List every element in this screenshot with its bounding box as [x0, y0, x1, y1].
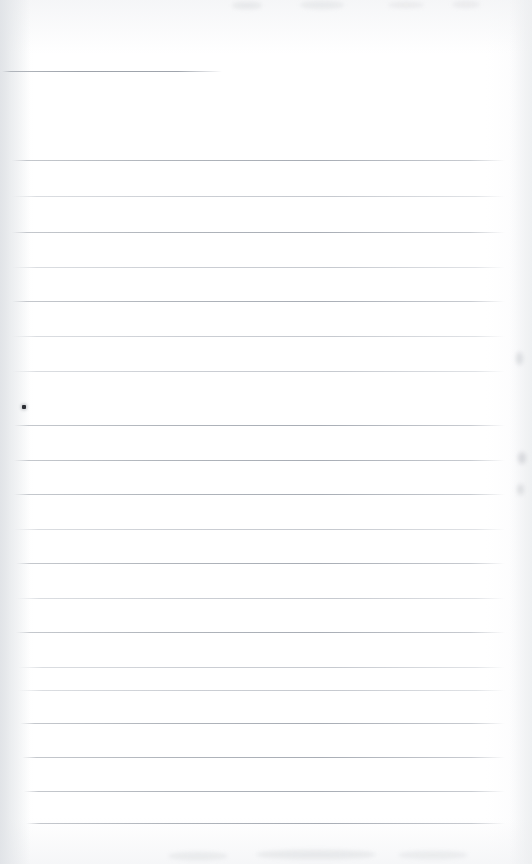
scanned-page [0, 0, 532, 864]
ruled-line [12, 196, 505, 197]
top-smudge-b [300, 1, 344, 9]
binding-gutter-shadow [0, 0, 30, 864]
ruled-line [22, 757, 505, 758]
ruled-line [12, 232, 505, 233]
bottom-smudge-a [168, 852, 228, 860]
top-smudge-a [232, 2, 262, 9]
header-rule [2, 71, 222, 72]
ruled-line [14, 494, 505, 495]
paper-background [0, 0, 532, 864]
ruled-line [14, 425, 505, 426]
edge-smudge-right-mid [518, 452, 526, 464]
ruled-line [24, 791, 505, 792]
ruled-line [12, 371, 505, 372]
ruled-line [12, 160, 505, 161]
top-smudge-d [452, 1, 480, 8]
ruled-line [12, 336, 505, 337]
top-smudge-c [388, 2, 424, 8]
ruled-line [16, 563, 505, 564]
edge-smudge-right-upper [516, 352, 523, 365]
ruled-line [20, 723, 505, 724]
ruled-line [12, 267, 505, 268]
ruled-line [18, 667, 505, 668]
ruled-line [12, 301, 505, 302]
page-right-edge-shadow [510, 0, 532, 864]
ruled-line [14, 460, 505, 461]
edge-smudge-right-lower [517, 484, 524, 495]
ruled-line [26, 823, 505, 824]
bottom-smudge-b [256, 850, 376, 859]
ink-dot-mark [22, 405, 26, 409]
ruled-line [16, 598, 505, 599]
ruled-line [14, 529, 505, 530]
bottom-smudge-c [398, 851, 468, 859]
paper-top-shading [0, 0, 532, 54]
paper-bottom-shading [0, 818, 532, 864]
ruled-line [16, 632, 505, 633]
ruled-line [18, 690, 505, 691]
